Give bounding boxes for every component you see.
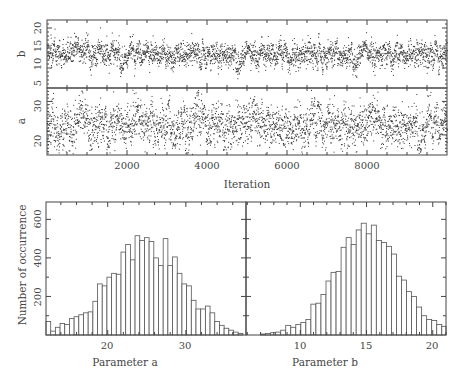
trace-point (366, 125, 367, 126)
trace-point (300, 105, 301, 106)
trace-point (235, 68, 236, 69)
trace-point (268, 57, 269, 58)
trace-point (90, 60, 91, 61)
trace-point (173, 125, 174, 126)
trace-point (243, 142, 244, 143)
trace-point (229, 106, 230, 107)
trace-point (370, 121, 371, 122)
trace-point (229, 52, 230, 53)
trace-point (59, 63, 60, 64)
trace-point (231, 121, 232, 122)
trace-point (227, 130, 228, 131)
trace-point (289, 137, 290, 138)
trace-point (223, 53, 224, 54)
trace-point (96, 139, 97, 140)
trace-point (418, 150, 419, 151)
trace-point (119, 129, 120, 130)
trace-point (194, 52, 195, 53)
trace-point (166, 53, 167, 54)
trace-point (296, 126, 297, 127)
trace-point (180, 132, 181, 133)
trace-point (447, 42, 448, 43)
trace-point (436, 115, 437, 116)
trace-point (426, 125, 427, 126)
trace-point (385, 122, 386, 123)
trace-point (173, 63, 174, 64)
trace-point (58, 131, 59, 132)
trace-point (243, 64, 244, 65)
trace-point (332, 119, 333, 120)
trace-point (281, 53, 282, 54)
trace-point (357, 59, 358, 60)
trace-point (85, 38, 86, 39)
trace-point (87, 126, 88, 127)
trace-point (105, 111, 106, 112)
trace-point (279, 128, 280, 129)
trace-point (193, 51, 194, 52)
trace-point (312, 51, 313, 52)
trace-point (182, 121, 183, 122)
trace-point (401, 148, 402, 149)
trace-point (416, 60, 417, 61)
trace-point (78, 103, 79, 104)
trace-point (211, 55, 212, 56)
trace-point (241, 57, 242, 58)
trace-point (326, 58, 327, 59)
trace-point (399, 115, 400, 116)
trace-point (186, 136, 187, 137)
trace-point (205, 56, 206, 57)
trace-point (52, 55, 53, 56)
trace-point (119, 118, 120, 119)
trace-point (355, 120, 356, 121)
trace-point (88, 118, 89, 119)
trace-point (293, 52, 294, 53)
histogram-bar (356, 230, 361, 335)
trace-point (415, 59, 416, 60)
trace-point (108, 65, 109, 66)
trace-point (306, 56, 307, 57)
trace-point (119, 110, 120, 111)
trace-point (352, 119, 353, 120)
trace-point (127, 65, 128, 66)
trace-point (436, 56, 437, 57)
trace-point (198, 95, 199, 96)
trace-point (237, 131, 238, 132)
trace-point (200, 118, 201, 119)
trace-point (349, 124, 350, 125)
trace-point (346, 131, 347, 132)
trace-point (204, 49, 205, 50)
trace-point (206, 68, 207, 69)
trace-point (389, 137, 390, 138)
trace-point (366, 51, 367, 52)
trace-point (313, 103, 314, 104)
trace-point (424, 138, 425, 139)
trace-point (95, 65, 96, 66)
trace-point (298, 55, 299, 56)
trace-point (92, 66, 93, 67)
trace-point (276, 132, 277, 133)
trace-point (432, 138, 433, 139)
trace-point (194, 124, 195, 125)
trace-point (319, 116, 320, 117)
trace-point (255, 130, 256, 131)
trace-point (373, 126, 374, 127)
trace-point (221, 49, 222, 50)
trace-point (305, 133, 306, 134)
trace-point (176, 136, 177, 137)
trace-point (272, 46, 273, 47)
trace-point (96, 61, 97, 62)
trace-point (112, 127, 113, 128)
trace-point (362, 41, 363, 42)
trace-point (108, 146, 109, 147)
trace-point (351, 113, 352, 114)
trace-point (258, 62, 259, 63)
trace-point (363, 125, 364, 126)
trace-point (366, 40, 367, 41)
trace-point (106, 113, 107, 114)
trace-point (361, 125, 362, 126)
trace-point (134, 129, 135, 130)
trace-point (219, 132, 220, 133)
trace-point (214, 54, 215, 55)
trace-point (236, 130, 237, 131)
trace-point (322, 63, 323, 64)
